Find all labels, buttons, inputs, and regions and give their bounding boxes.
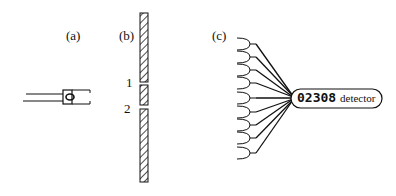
counter-display: 02308 [297,90,336,105]
diagram-canvas [0,0,396,196]
double-slit-screen-icon [140,13,148,182]
detector-label: detector [340,92,375,104]
horn-detector-array-icon [237,38,293,159]
source-device-icon [23,90,90,104]
